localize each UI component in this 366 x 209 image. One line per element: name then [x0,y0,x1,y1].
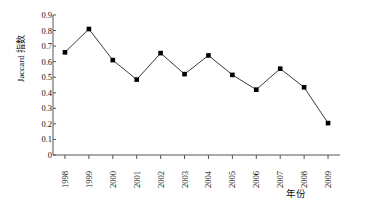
data-point-marker [302,85,307,90]
data-point-marker [87,27,92,32]
data-point-marker [158,51,163,56]
data-point-marker [230,73,235,78]
data-point-marker [110,58,115,63]
chart-figure: Jaccard 指数 00.10.20.30.40.50.60.70.80.9 … [0,0,366,209]
data-point-marker [134,77,139,82]
data-point-marker [278,66,283,71]
data-point-marker [206,53,211,58]
data-point-marker [182,72,187,77]
x-axis-title: 年份 [286,186,306,200]
x-axis-ticks [65,155,328,159]
data-point-marker [63,50,68,55]
data-series-line [65,29,328,123]
axis-lines [53,15,340,155]
data-point-marker [254,87,259,92]
data-point-marker [326,121,331,126]
plot-area [0,0,366,209]
